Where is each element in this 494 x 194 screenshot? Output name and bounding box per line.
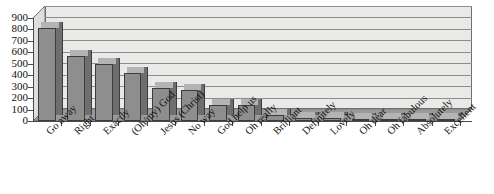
y-axis-tick-label: 900 (2, 12, 28, 23)
y-axis-tick-label: 700 (2, 35, 28, 46)
y-axis-line (33, 18, 34, 121)
y-axis-tick-label: 100 (2, 104, 28, 115)
y-axis-tick-label: 500 (2, 58, 28, 69)
y-axis-tick (28, 98, 34, 99)
bar-side-face (113, 58, 120, 115)
y-axis-tick (28, 121, 34, 122)
y-axis-tick-label: 800 (2, 23, 28, 34)
gridline (45, 17, 472, 18)
y-axis-tick (28, 29, 34, 30)
y-axis-tick-label: 600 (2, 46, 28, 57)
y-axis-tick-label: 0 (2, 115, 28, 126)
y-axis-tick (28, 41, 34, 42)
y-axis-tick (28, 64, 34, 65)
bar (95, 64, 113, 121)
y-axis-tick (28, 110, 34, 111)
bar-side-face (141, 67, 148, 115)
gridline (45, 29, 472, 30)
bar-chart: 9008007006005004003002001000 Go awayRigh… (0, 0, 494, 194)
y-axis-tick (28, 87, 34, 88)
y-axis-tick (28, 18, 34, 19)
y-axis-labels: 9008007006005004003002001000 (0, 0, 28, 194)
y-axis-tick (28, 75, 34, 76)
y-axis-tick-label: 200 (2, 92, 28, 103)
gridline (45, 52, 472, 53)
y-axis-tick-label: 400 (2, 69, 28, 80)
gridline (45, 40, 472, 41)
y-axis-tick (28, 52, 34, 53)
bar (38, 28, 56, 121)
bar-side-face (56, 22, 63, 115)
bar-side-face (85, 50, 92, 115)
y-axis-tick-label: 300 (2, 81, 28, 92)
gridline (45, 6, 472, 7)
